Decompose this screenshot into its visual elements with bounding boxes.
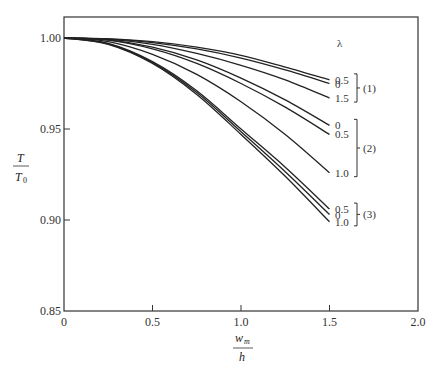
lambda-label: 1.0 [335,216,349,228]
group-bracket [354,119,360,176]
group-bracket [354,203,360,226]
curves [64,38,330,222]
x-tick-label: 0 [61,315,67,329]
curve-line [64,38,330,173]
chart: 00.51.01.52.00.850.900.951.00 0.501.5(1)… [0,0,443,374]
y-tick-label: 1.00 [40,31,61,45]
x-tick-label: 1.5 [322,315,337,329]
x-tick-label: 1.0 [234,315,249,329]
group-bracket [354,74,360,102]
curve-line [64,38,330,215]
x-axis-label: w m h [233,331,253,364]
svg-text:T: T [17,151,25,165]
svg-text:T: T [15,170,23,184]
curve-line [64,38,330,84]
group-label: (3) [363,208,376,221]
plot-frame [64,17,418,311]
lambda-header: λ [337,37,343,49]
lambda-label: 0 [335,78,341,90]
y-tick-label: 0.95 [40,122,61,136]
lambda-label: 1.0 [335,167,349,179]
svg-text:h: h [239,350,245,364]
svg-text:w: w [235,331,243,345]
curve-line [64,38,330,134]
legend-annotations: 0.501.5(1)00.51.0(2)0.501.0(3) [335,74,376,228]
lambda-label: 1.5 [335,92,349,104]
x-tick-label: 0.5 [145,315,160,329]
lambda-label: 0.5 [335,128,349,140]
curve-line [64,38,330,80]
axis-ticks: 00.51.01.52.00.850.900.951.00 [40,31,426,329]
x-tick-label: 2.0 [411,315,426,329]
group-label: (1) [363,82,376,95]
svg-text:m: m [244,337,250,346]
svg-text:0: 0 [23,176,27,185]
y-tick-label: 0.85 [40,304,61,318]
y-axis-label: T T 0 [13,151,29,185]
group-label: (2) [363,142,376,155]
curve-line [64,38,330,222]
y-tick-label: 0.90 [40,213,61,227]
